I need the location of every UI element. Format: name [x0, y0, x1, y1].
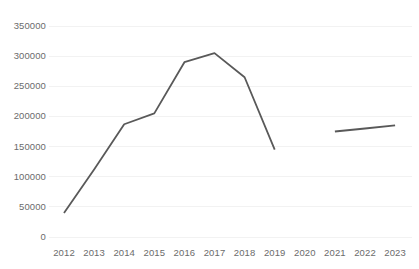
x-axis-tick-label: 2021: [324, 248, 346, 258]
x-axis-tick-label: 2013: [83, 248, 105, 258]
x-axis-tick-label: 2015: [144, 248, 166, 258]
x-axis-tick-label: 2020: [294, 248, 316, 258]
x-axis-labels: 2012201320142015201620172018201920202021…: [0, 0, 419, 269]
x-axis-tick-label: 2023: [384, 248, 406, 258]
x-axis-tick-label: 2018: [234, 248, 256, 258]
x-axis-tick-label: 2022: [354, 248, 376, 258]
line-chart: 0500001000001500002000002500003000003500…: [0, 0, 419, 269]
x-axis-tick-label: 2019: [264, 248, 286, 258]
x-axis-tick-label: 2014: [113, 248, 135, 258]
x-axis-tick-label: 2017: [204, 248, 226, 258]
x-axis-tick-label: 2016: [174, 248, 196, 258]
x-axis-tick-label: 2012: [53, 248, 75, 258]
